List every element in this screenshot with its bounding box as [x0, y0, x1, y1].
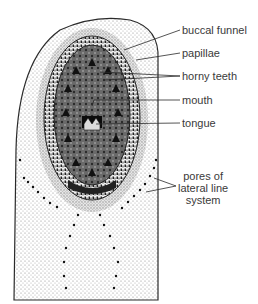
- label-line: lateral line: [178, 182, 228, 194]
- label-papillae: papillae: [182, 47, 220, 59]
- label-tongue: tongue: [182, 117, 216, 129]
- lamprey-oral-disc-diagram: buccal funnel papillae horny teeth mouth…: [0, 0, 258, 304]
- label-mouth: mouth: [182, 94, 213, 106]
- label-buccal-funnel: buccal funnel: [182, 24, 247, 36]
- label-horny-teeth: horny teeth: [182, 70, 237, 82]
- label-line: system: [178, 194, 228, 206]
- label-pores-of-lateral-line-system: pores of lateral line system: [178, 170, 228, 206]
- label-line: pores of: [178, 170, 228, 182]
- illustration: [0, 0, 258, 304]
